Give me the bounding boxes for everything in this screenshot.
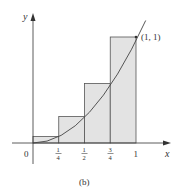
chart-figure: y x 0 (1, 1) 1 4 1 2 3 4 1 (b)	[0, 0, 181, 196]
svg-text:1: 1	[83, 146, 86, 153]
point-1-1-marker	[135, 36, 138, 39]
x-axis-label: x	[164, 148, 170, 159]
svg-text:2: 2	[83, 154, 86, 161]
x-axis-arrow-icon	[163, 141, 171, 146]
rect-4	[110, 37, 136, 143]
tick-half: 1 2	[82, 146, 88, 161]
rect-2	[59, 117, 85, 144]
svg-text:4: 4	[109, 154, 113, 161]
point-annotation: (1, 1)	[141, 32, 161, 42]
svg-text:4: 4	[57, 154, 61, 161]
tick-one-label: 1	[134, 149, 139, 159]
svg-text:3: 3	[109, 146, 112, 153]
tick-three-quarters: 3 4	[108, 146, 114, 161]
approx-rectangles	[33, 37, 136, 143]
rect-1	[33, 136, 59, 143]
y-axis-arrow-icon	[31, 13, 36, 21]
figure-caption: (b)	[79, 177, 90, 187]
origin-label: 0	[24, 149, 29, 159]
svg-text:1: 1	[57, 146, 60, 153]
tick-quarter: 1 4	[56, 146, 62, 161]
y-axis-label: y	[22, 11, 28, 22]
